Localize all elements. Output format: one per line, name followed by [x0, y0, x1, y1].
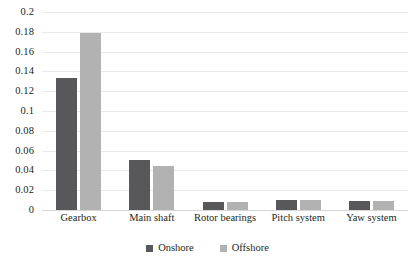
y-axis-tick-label: 0.14 [15, 66, 34, 77]
bars-layer [42, 12, 408, 210]
y-axis-tick-label: 0.04 [15, 165, 34, 176]
y-axis-tick-label: 0.02 [15, 185, 34, 196]
y-axis-tick-label: 0.2 [21, 7, 34, 18]
bar-group [42, 12, 115, 210]
y-axis-tick-label: 0.08 [15, 126, 34, 137]
axis-baseline [42, 210, 408, 211]
legend-item-offshore[interactable]: Offshore [220, 243, 269, 254]
x-axis-category-label: Rotor bearings [188, 212, 261, 224]
bar-group [115, 12, 188, 210]
legend-label: Onshore [158, 243, 194, 254]
x-axis-category-label: Main shaft [115, 212, 188, 224]
y-axis-tick-label: 0.16 [15, 46, 34, 57]
y-axis-tick-label: 0.06 [15, 145, 34, 156]
bar-offshore-pitch-system [300, 200, 321, 210]
bar-group [262, 12, 335, 210]
legend-swatch-icon [220, 245, 227, 252]
legend-label: Offshore [232, 243, 269, 254]
bar-offshore-yaw-system [373, 201, 394, 210]
bar-onshore-gearbox [56, 78, 77, 210]
bar-onshore-pitch-system [276, 200, 297, 210]
plot-area [42, 12, 408, 210]
legend-swatch-icon [146, 245, 153, 252]
bar-offshore-rotor-bearings [227, 202, 248, 210]
plot-wrapper: 0.20.180.160.140.120.10.080.060.040.020 … [0, 0, 415, 240]
y-axis: 0.20.180.160.140.120.10.080.060.040.020 [0, 12, 38, 210]
chart-legend: OnshoreOffshore [0, 243, 415, 254]
bar-offshore-gearbox [80, 33, 101, 210]
bar-chart: 0.20.180.160.140.120.10.080.060.040.020 … [0, 0, 415, 267]
legend-item-onshore[interactable]: Onshore [146, 243, 194, 254]
x-axis: GearboxMain shaftRotor bearingsPitch sys… [42, 212, 408, 224]
y-axis-tick-label: 0.1 [21, 106, 34, 117]
bar-onshore-main-shaft [129, 160, 150, 210]
bar-onshore-yaw-system [349, 201, 370, 210]
y-axis-tick-label: 0.12 [15, 86, 34, 97]
bar-offshore-main-shaft [153, 166, 174, 210]
y-axis-tick-label: 0 [29, 205, 34, 216]
bar-onshore-rotor-bearings [203, 202, 224, 210]
x-axis-category-label: Yaw system [335, 212, 408, 224]
bar-group [335, 12, 408, 210]
y-axis-tick-label: 0.18 [15, 27, 34, 38]
bar-group [188, 12, 261, 210]
x-axis-category-label: Gearbox [42, 212, 115, 224]
x-axis-category-label: Pitch system [262, 212, 335, 224]
